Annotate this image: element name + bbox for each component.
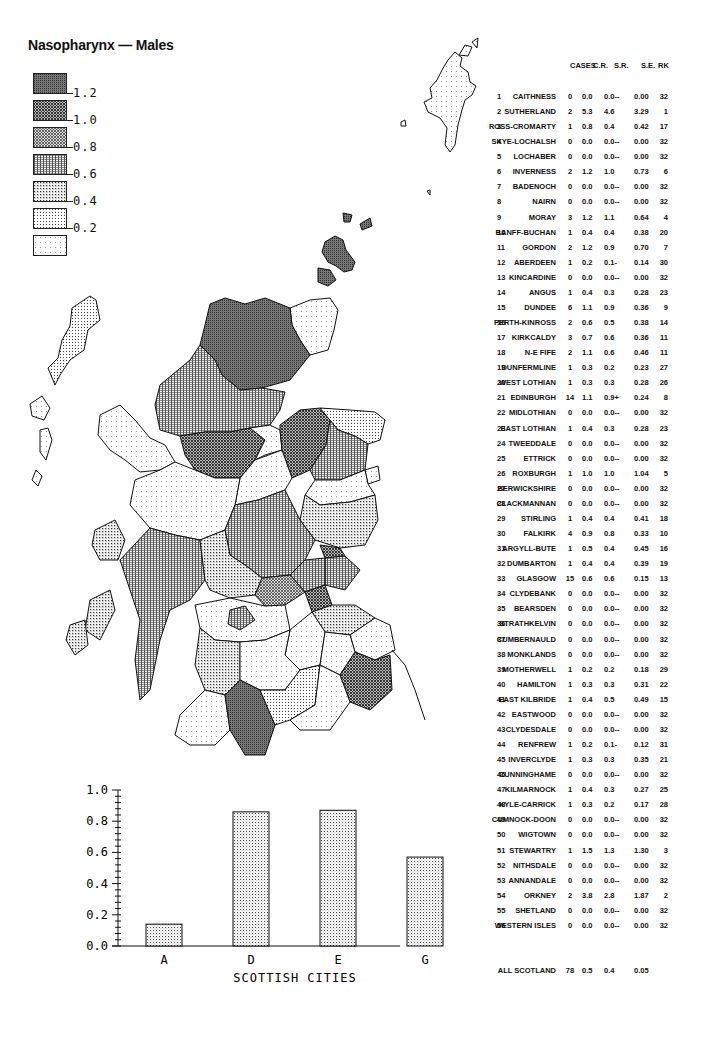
cases-value: 1 [563, 378, 577, 387]
bar-G [407, 857, 443, 946]
rank: 27 [654, 363, 668, 372]
cases-value: 1 [563, 544, 577, 553]
crude-rate: 0.0 [582, 137, 592, 146]
cases-value: 3 [563, 333, 577, 342]
standardised-rate: 0.9+ [604, 393, 619, 402]
district-name: ETTRICK [524, 454, 557, 463]
standardised-rate: 0.5 [604, 695, 614, 704]
table-row: 23EAST LOTHIAN10.40.30.2823 [490, 424, 707, 434]
district-name: NITHSDALE [513, 861, 556, 870]
row-number: 55 [497, 906, 505, 915]
crude-rate: 0.0 [582, 589, 592, 598]
rank: 31 [654, 740, 668, 749]
standard-error: 0.00 [634, 770, 649, 779]
cases-value: 1 [563, 514, 577, 523]
standardised-rate: 0.6 [604, 333, 614, 342]
table-row: 55SHETLAND00.00.0--0.0032 [490, 906, 707, 916]
district-name: PERTH-KINROSS [494, 318, 556, 327]
crude-rate: 0.0 [582, 619, 592, 628]
table-row: 12ABERDEEN10.20.1-0.1430 [490, 258, 707, 268]
table-row: 29STIRLING10.40.40.4118 [490, 514, 707, 524]
standardised-rate: 0.4 [604, 228, 614, 237]
district-name: ROXBURGH [512, 469, 556, 478]
standardised-rate: 0.3 [604, 424, 614, 433]
x-category-label: A [160, 953, 168, 967]
cases-value: 1 [563, 228, 577, 237]
standard-error: 0.33 [634, 529, 649, 538]
table-row: 47KILMARNOCK10.40.30.2725 [490, 785, 707, 795]
standardised-rate: 1.3 [604, 846, 614, 855]
district-name: BERWICKSHIRE [497, 484, 556, 493]
table-row: 24TWEEDDALE00.00.0--0.0032 [490, 439, 707, 449]
standardised-rate: 0.0-- [604, 182, 619, 191]
crude-rate: 0.0 [582, 439, 592, 448]
district-name: DUNDEE [524, 303, 556, 312]
standardised-rate: 0.4 [604, 544, 614, 553]
table-row: 31ARGYLL-BUTE10.50.40.4516 [490, 544, 707, 554]
crude-rate: 0.2 [582, 740, 592, 749]
standardised-rate: 0.4 [604, 122, 614, 131]
district-name: KIRKCALDY [512, 333, 556, 342]
cases-value: 0 [563, 197, 577, 206]
standard-error: 0.64 [634, 213, 649, 222]
standard-error: 0.00 [634, 182, 649, 191]
crude-rate: 0.4 [582, 228, 592, 237]
standardised-rate: 0.0-- [604, 770, 619, 779]
table-row: 11GORDON21.20.90.707 [490, 243, 707, 253]
cases-value: 1 [563, 800, 577, 809]
standardised-rate: 2.8 [604, 891, 614, 900]
row-number: 13 [497, 273, 505, 282]
y-tick-label: 0.8 [86, 814, 108, 828]
standardised-rate: 0.0-- [604, 861, 619, 870]
standardised-rate: 0.0-- [604, 604, 619, 613]
cases-value: 0 [563, 921, 577, 930]
total-label: ALL SCOTLAND [498, 966, 556, 975]
crude-rate: 1.2 [582, 167, 592, 176]
rank: 23 [654, 288, 668, 297]
district-name: EDINBURGH [511, 393, 556, 402]
crude-rate: 0.0 [582, 604, 592, 613]
rank: 8 [654, 393, 668, 402]
table-row: 41EAST KILBRIDE10.40.50.4915 [490, 695, 707, 705]
rank: 32 [654, 815, 668, 824]
district-name: RENFREW [518, 740, 556, 749]
table-row: 39MOTHERWELL10.20.20.1829 [490, 665, 707, 675]
rank: 25 [654, 785, 668, 794]
district-name: STEWARTRY [509, 846, 556, 855]
standardised-rate: 4.6 [604, 107, 614, 116]
district-name: EAST LOTHIAN [501, 424, 556, 433]
standardised-rate: 0.0-- [604, 137, 619, 146]
rank: 14 [654, 318, 668, 327]
crude-rate: 0.0 [582, 197, 592, 206]
total-standard-error: 0.05 [634, 966, 649, 975]
row-number: 33 [497, 574, 505, 583]
table-row: 6INVERNESS21.21.00.736 [490, 167, 707, 177]
cases-value: 0 [563, 484, 577, 493]
district-name: LOCHABER [514, 152, 557, 161]
standard-error: 0.45 [634, 544, 649, 553]
standard-error: 0.28 [634, 288, 649, 297]
row-number: 44 [497, 740, 505, 749]
standard-error: 0.46 [634, 348, 649, 357]
cases-value: 0 [563, 182, 577, 191]
crude-rate: 0.5 [582, 544, 592, 553]
standardised-rate: 0.4 [604, 559, 614, 568]
district-name: INVERNESS [513, 167, 556, 176]
row-number: 43 [497, 725, 505, 734]
crude-rate: 0.0 [582, 635, 592, 644]
standardised-rate: 0.5 [604, 318, 614, 327]
standard-error: 0.00 [634, 725, 649, 734]
table-row: 51STEWARTRY11.51.31.303 [490, 846, 707, 856]
cases-value: 0 [563, 589, 577, 598]
standardised-rate: 0.0-- [604, 725, 619, 734]
crude-rate: 0.8 [582, 122, 592, 131]
row-number: 1 [497, 92, 501, 101]
x-category-label: E [334, 953, 341, 967]
standard-error: 0.28 [634, 424, 649, 433]
rank: 10 [654, 529, 668, 538]
standard-error: 1.87 [634, 891, 649, 900]
standard-error: 0.00 [634, 137, 649, 146]
cases-value: 0 [563, 815, 577, 824]
table-row: 38MONKLANDS00.00.0--0.0032 [490, 650, 707, 660]
crude-rate: 0.0 [582, 830, 592, 839]
